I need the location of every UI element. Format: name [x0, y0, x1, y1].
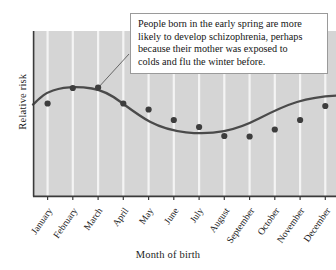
data-point-november — [297, 117, 303, 123]
annotation-callout: People born in the early spring are more… — [130, 13, 328, 74]
data-point-february — [70, 85, 76, 91]
chart-figure: Relative risk January February March Apr… — [0, 0, 336, 270]
data-point-may — [146, 106, 152, 112]
annotation-line-2: likely to develop schizophrenia, perhaps — [138, 31, 322, 44]
data-point-december — [322, 103, 328, 109]
y-axis-label: Relative risk — [17, 57, 28, 147]
data-point-august — [221, 133, 227, 139]
data-point-march — [95, 84, 101, 90]
x-axis-label: Month of birth — [0, 249, 336, 260]
data-point-january — [45, 100, 51, 106]
data-point-october — [272, 126, 278, 132]
data-point-july — [196, 124, 202, 130]
annotation-line-4: colds and flu the winter before. — [138, 56, 322, 69]
annotation-line-1: People born in the early spring are more — [138, 18, 322, 31]
data-point-september — [247, 133, 253, 139]
annotation-line-3: because their mother was exposed to — [138, 43, 322, 56]
data-point-april — [120, 100, 126, 106]
data-point-june — [171, 117, 177, 123]
